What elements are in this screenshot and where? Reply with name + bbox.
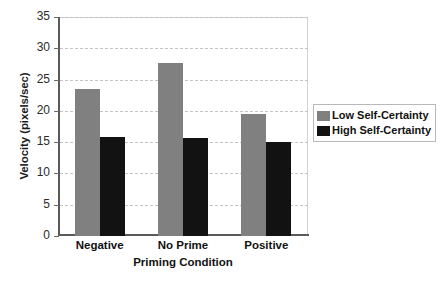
low-self-certainty-swatch [317, 111, 330, 121]
bar-no-prime-high [183, 138, 208, 236]
y-tick-label: 10 [20, 165, 50, 179]
y-tick-label: 25 [20, 72, 50, 86]
y-tick-label: 30 [20, 40, 50, 54]
y-tick-label: 35 [20, 9, 50, 23]
y-tick-label: 0 [20, 228, 50, 242]
y-tick-label: 20 [20, 103, 50, 117]
legend-label-high-self-certainty: High Self-Certainty [332, 124, 431, 137]
x-tick-label-positive: Positive [216, 239, 316, 251]
legend: Low Self-Certainty High Self-Certainty [313, 104, 436, 142]
legend-item-low-self-certainty: Low Self-Certainty [317, 108, 431, 123]
x-axis-title: Priming Condition [58, 256, 308, 268]
y-tick-label: 5 [20, 197, 50, 211]
bars-layer [58, 17, 308, 236]
bar-chart-figure: Velocity (pixels/sec) 05101520253035 Neg… [0, 0, 443, 287]
bar-positive-high [266, 142, 291, 236]
bar-no-prime-low [158, 63, 183, 236]
legend-item-high-self-certainty: High Self-Certainty [317, 123, 431, 138]
figure-caption-partial [18, 279, 428, 287]
bar-positive-low [241, 114, 266, 236]
y-tick-label: 15 [20, 134, 50, 148]
high-self-certainty-swatch [317, 126, 330, 136]
bar-negative-low [75, 89, 100, 236]
y-axis-title: Velocity (pixels/sec) [18, 41, 30, 211]
legend-label-low-self-certainty: Low Self-Certainty [332, 109, 429, 122]
y-tick-mark [54, 236, 59, 237]
bar-negative-high [100, 137, 125, 236]
